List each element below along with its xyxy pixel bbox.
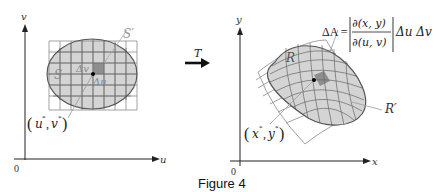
- svg-text:): ): [279, 125, 284, 143]
- point-label-uv: ( u * , v * ): [27, 114, 67, 133]
- svg-text:x: x: [252, 127, 259, 141]
- highlight-cell: [93, 63, 104, 74]
- transform-arrow: T: [185, 47, 210, 68]
- delta-u-label: Δu: [92, 76, 107, 87]
- formula-numerator: ∂(x, y): [352, 17, 386, 30]
- point-label-xy: ( x * , y * ): [244, 124, 284, 143]
- svg-text:v: v: [51, 117, 58, 131]
- v-axis-label: v: [21, 11, 27, 22]
- s-prime-label: S′: [123, 27, 134, 41]
- y-axis-label: y: [235, 14, 242, 25]
- center-point-r: [312, 78, 316, 82]
- svg-text:y: y: [267, 127, 275, 141]
- svg-text:,: ,: [263, 127, 266, 141]
- figure-caption: Figure 4: [198, 176, 246, 191]
- u-axis-arrow-icon: [152, 156, 160, 162]
- s-label: S: [54, 68, 62, 82]
- left-panel: v u 0 S′ S Δv Δu ( u * , v * ): [14, 11, 166, 174]
- x-axis-label: x: [372, 156, 378, 167]
- svg-text:(: (: [244, 125, 249, 143]
- x-axis-arrow-icon: [363, 158, 371, 164]
- region-r: [267, 46, 365, 125]
- svg-text:): ): [62, 115, 67, 133]
- r-label: R: [285, 51, 295, 65]
- u-axis-label: u: [160, 154, 166, 165]
- right-panel: y x 0 R R′ ( x * , y * ) ΔA = ∂(x, y) ∂(…: [230, 14, 432, 177]
- formula-lhs: ΔA =: [322, 25, 348, 39]
- formula-denominator: ∂(u, v): [352, 36, 387, 49]
- origin-label: 0: [14, 163, 19, 174]
- figure-canvas: v u 0 S′ S Δv Δu ( u * , v * ) T: [0, 0, 440, 192]
- formula-rhs: Δu Δv: [395, 25, 432, 39]
- jacobian-formula: ΔA = ∂(x, y) ∂(u, v) Δu Δv: [322, 17, 432, 52]
- arrow-head-icon: [201, 58, 210, 68]
- transform-label: T: [194, 47, 203, 60]
- svg-text:,: ,: [46, 117, 49, 131]
- v-axis-arrow-icon: [22, 24, 28, 32]
- y-axis-arrow-icon: [237, 27, 243, 35]
- r-prime-label: R′: [384, 102, 397, 116]
- svg-text:(: (: [27, 115, 32, 133]
- delta-v-label: Δv: [75, 63, 89, 74]
